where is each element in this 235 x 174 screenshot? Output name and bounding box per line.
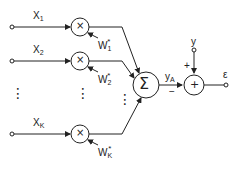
multiply-icon-k: × xyxy=(76,128,84,138)
desired-label: y xyxy=(191,37,196,47)
plus-icon: + xyxy=(190,79,199,90)
sigma-icon: Σ xyxy=(139,76,149,92)
input-terminal-2 xyxy=(10,59,14,63)
ellipsis-inputs: ⋮ xyxy=(11,86,25,100)
error-terminal xyxy=(224,83,228,87)
input-label-2: X2 xyxy=(33,45,44,56)
input-label-1: X1 xyxy=(33,11,44,22)
ellipsis-multipliers: ⋮ xyxy=(76,86,90,100)
output-label: yA xyxy=(165,72,175,83)
input-label-k: XK xyxy=(33,118,44,129)
weight-label-k: WK* xyxy=(98,145,111,159)
multiply-icon-2: × xyxy=(76,55,84,65)
product-line-k xyxy=(89,98,141,134)
plus-sign: + xyxy=(184,61,190,71)
input-terminal-1 xyxy=(10,25,14,29)
desired-terminal xyxy=(192,48,196,52)
product-line-1 xyxy=(89,27,139,73)
input-terminal-k xyxy=(10,132,14,136)
weight-label-2: W2* xyxy=(98,72,110,86)
diagram-canvas xyxy=(0,0,235,174)
weight-arrow-1 xyxy=(88,33,98,38)
product-line-2 xyxy=(89,61,134,78)
weight-label-1: W1* xyxy=(98,38,110,52)
minus-sign: − xyxy=(169,87,175,97)
ellipsis-sum: ⋮ xyxy=(118,92,132,106)
weight-arrow-k xyxy=(88,140,98,145)
multiply-icon-1: × xyxy=(76,21,84,31)
weight-arrow-2 xyxy=(88,67,98,72)
error-label: ε xyxy=(223,70,227,80)
